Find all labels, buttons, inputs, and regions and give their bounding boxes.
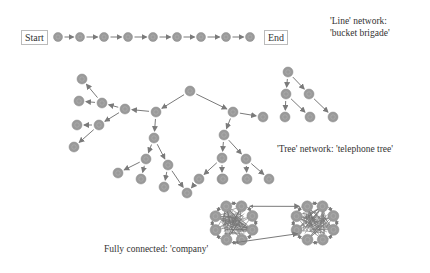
edge-arrow [162, 95, 184, 109]
network-node [159, 182, 169, 192]
network-node [136, 174, 146, 184]
edge-arrow [132, 110, 149, 112]
network-node [247, 210, 258, 221]
network-node [210, 211, 221, 222]
line-network [54, 33, 255, 42]
fully-connected-network [210, 201, 339, 245]
network-node [74, 96, 84, 106]
fully-connected-caption: Fully connected: 'company' [104, 243, 208, 255]
edge-arrow [165, 172, 166, 180]
edge-arrow [287, 79, 288, 87]
network-node [124, 33, 133, 42]
network-node [97, 98, 107, 108]
network-node [236, 234, 247, 245]
edge-arrow [293, 77, 304, 89]
network-node [280, 112, 290, 122]
line-network-caption-2: 'bucket brigade' [330, 27, 390, 39]
network-node [113, 168, 123, 178]
network-node [328, 112, 338, 122]
network-node [291, 211, 302, 222]
network-node [100, 33, 109, 42]
edge-arrow [251, 164, 263, 175]
tree-network-caption: 'Tree' network: 'telephone tree' [277, 143, 393, 155]
network-node [302, 201, 313, 212]
network-node [219, 130, 229, 140]
network-node [281, 89, 291, 99]
edge-arrow [105, 113, 119, 122]
edge-arrow [155, 119, 156, 131]
edge-arrow [314, 99, 328, 112]
end-box: End [264, 30, 288, 45]
network-node [151, 107, 161, 117]
edge-arrow [86, 102, 95, 103]
network-node [54, 33, 63, 42]
network-node [173, 33, 182, 42]
network-node [302, 234, 313, 245]
network-node [120, 104, 130, 114]
network-node [185, 86, 195, 96]
network-node [222, 33, 231, 42]
network-node [317, 234, 328, 245]
edge-arrow [204, 163, 217, 175]
network-node [182, 188, 192, 198]
edge-arrow [223, 142, 224, 151]
network-node [258, 112, 268, 122]
network-node [236, 201, 247, 212]
edge-arrow [148, 145, 151, 153]
edge-arrow [79, 130, 93, 143]
edge-arrow [192, 184, 195, 187]
network-node [217, 153, 227, 163]
edge-arrow [291, 99, 305, 112]
network-node [328, 210, 339, 221]
network-node [149, 33, 158, 42]
network-node [247, 224, 258, 235]
start-box: Start [21, 30, 48, 45]
network-node [283, 67, 293, 77]
edge-arrow [240, 113, 256, 116]
edge-arrow [172, 171, 183, 187]
network-node [241, 154, 251, 164]
edge-arrow [157, 144, 165, 159]
network-diagram [0, 0, 430, 273]
network-node [218, 174, 228, 184]
network-node [141, 154, 151, 164]
network-node [149, 133, 159, 143]
network-node [72, 120, 82, 130]
network-node [317, 201, 328, 212]
edge-arrow [124, 162, 139, 170]
edge-arrow [86, 84, 97, 97]
network-node [221, 234, 232, 245]
edge-arrow [227, 119, 231, 129]
edge-arrow [143, 166, 145, 172]
network-node [246, 33, 255, 42]
line-network-caption-1: 'Line' network: [330, 15, 387, 27]
network-node [194, 174, 204, 184]
network-node [76, 33, 85, 42]
network-node [94, 120, 104, 130]
network-node [328, 224, 339, 235]
network-node [210, 225, 221, 236]
network-node [163, 160, 173, 170]
network-node [305, 112, 315, 122]
network-node [304, 89, 314, 99]
network-node [77, 74, 87, 84]
network-node [197, 33, 206, 42]
edge-arrow [196, 94, 226, 109]
network-node [242, 174, 252, 184]
edge-arrow [109, 105, 118, 107]
edge-arrow [229, 140, 242, 154]
tree-network [69, 67, 338, 198]
network-node [221, 201, 232, 212]
network-node [264, 174, 274, 184]
network-node [228, 107, 238, 117]
network-node [69, 142, 79, 152]
